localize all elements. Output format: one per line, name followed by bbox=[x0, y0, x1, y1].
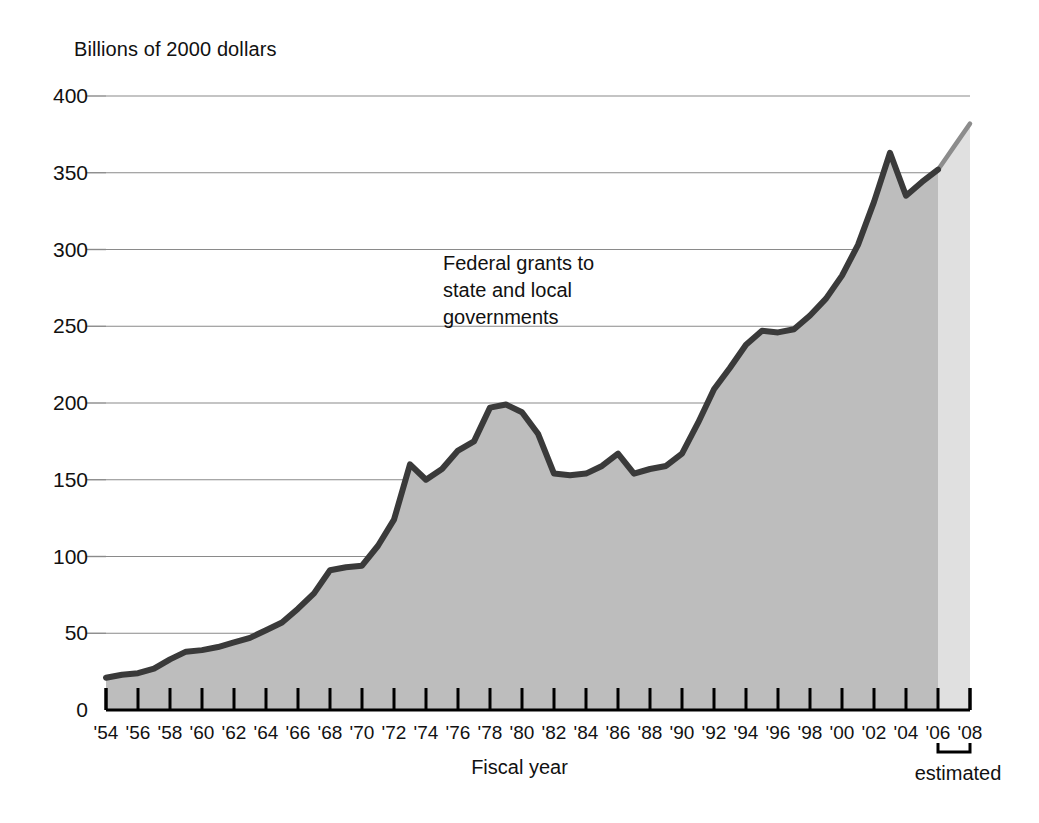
area-fill-actual bbox=[106, 153, 938, 710]
y-tick-label-50: 50 bbox=[65, 621, 88, 645]
x-tick-label-66: '66 bbox=[286, 722, 311, 744]
y-tick-label-300: 300 bbox=[53, 238, 88, 262]
area-fill-estimated bbox=[938, 124, 970, 710]
x-tick-label-88: '88 bbox=[638, 722, 663, 744]
x-tick-label-62: '62 bbox=[222, 722, 247, 744]
x-tick-label-04: '04 bbox=[894, 722, 919, 744]
y-axis-title: Billions of 2000 dollars bbox=[74, 38, 277, 61]
x-tick-label-98: '98 bbox=[798, 722, 823, 744]
x-tick-label-72: '72 bbox=[382, 722, 407, 744]
x-tick-label-00: '00 bbox=[830, 722, 855, 744]
x-tick-label-74: '74 bbox=[414, 722, 439, 744]
y-tick-label-150: 150 bbox=[53, 468, 88, 492]
x-tick-label-08: '08 bbox=[958, 722, 983, 744]
x-tick-label-96: '96 bbox=[766, 722, 791, 744]
x-tick-label-76: '76 bbox=[446, 722, 471, 744]
plot-area bbox=[0, 0, 1039, 823]
y-tick-label-350: 350 bbox=[53, 161, 88, 185]
y-tick-label-250: 250 bbox=[53, 314, 88, 338]
y-axis-tick-labels: 050100150200250300350400 bbox=[0, 0, 88, 823]
x-tick-label-02: '02 bbox=[862, 722, 887, 744]
y-tick-label-0: 0 bbox=[76, 698, 88, 722]
x-tick-label-86: '86 bbox=[606, 722, 631, 744]
x-tick-label-78: '78 bbox=[478, 722, 503, 744]
y-tick-label-200: 200 bbox=[53, 391, 88, 415]
x-tick-label-92: '92 bbox=[702, 722, 727, 744]
x-tick-label-94: '94 bbox=[734, 722, 759, 744]
x-tick-label-90: '90 bbox=[670, 722, 695, 744]
estimated-bracket bbox=[938, 743, 970, 752]
y-tick-label-400: 400 bbox=[53, 84, 88, 108]
y-tick-label-100: 100 bbox=[53, 545, 88, 569]
chart-figure: Billions of 2000 dollars 050100150200250… bbox=[0, 0, 1039, 823]
x-tick-label-54: '54 bbox=[94, 722, 119, 744]
x-tick-label-82: '82 bbox=[542, 722, 567, 744]
series-annotation-label: Federal grants to state and local govern… bbox=[443, 250, 594, 331]
x-tick-label-68: '68 bbox=[318, 722, 343, 744]
estimated-region-label: estimated bbox=[878, 762, 1038, 785]
x-tick-label-58: '58 bbox=[158, 722, 183, 744]
x-tick-label-84: '84 bbox=[574, 722, 599, 744]
x-tick-label-80: '80 bbox=[510, 722, 535, 744]
x-tick-label-70: '70 bbox=[350, 722, 375, 744]
x-tick-label-60: '60 bbox=[190, 722, 215, 744]
x-tick-label-56: '56 bbox=[126, 722, 151, 744]
y-axis-tick-marks bbox=[86, 96, 106, 633]
x-tick-label-64: '64 bbox=[254, 722, 279, 744]
x-tick-label-06: '06 bbox=[926, 722, 951, 744]
